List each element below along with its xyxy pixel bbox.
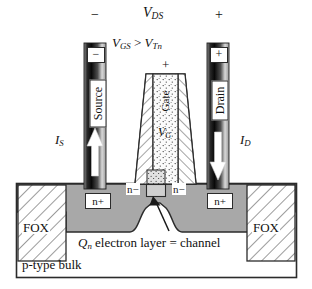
gate-polarity-sign: +: [162, 58, 169, 71]
source-polarity-top: −: [91, 8, 99, 22]
source-current-label: IS: [55, 133, 64, 148]
drain-polarity-box: +: [210, 47, 228, 63]
drain-label: Drain: [212, 81, 229, 121]
gate-label: Gate: [159, 84, 173, 118]
substrate-label: p-type bulk: [22, 258, 82, 271]
fox-left-label: FOX: [22, 221, 50, 234]
vgs-threshold-condition: VGS > VTn: [112, 36, 162, 51]
source-label: Source: [90, 80, 107, 128]
gate-voltage-label: VG: [158, 126, 171, 140]
fox-right-label: FOX: [252, 221, 280, 234]
nminus-left-label: n−: [126, 183, 140, 195]
inversion-channel: [147, 185, 166, 197]
charge-symbol: Qn: [78, 235, 92, 250]
channel-annotation: Qn electron layer = channel: [78, 236, 220, 251]
nplus-left-label: n+: [85, 193, 111, 209]
drain-current-label: ID: [240, 133, 251, 148]
vds-label: VDS: [143, 6, 163, 22]
drain-polarity-top: +: [215, 8, 223, 22]
figure-canvas: − VDS + VGS > VTn − + Source Drain + Gat…: [0, 0, 312, 289]
nplus-right-label: n+: [207, 193, 233, 209]
nminus-right-label: n−: [172, 183, 186, 195]
channel-annotation-text: electron layer = channel: [95, 235, 220, 250]
source-polarity-box: −: [87, 47, 105, 63]
